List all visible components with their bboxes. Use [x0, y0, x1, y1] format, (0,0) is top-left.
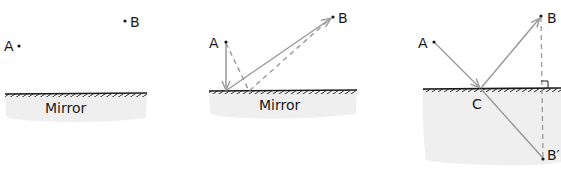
ray-mirror-to-b [227, 19, 330, 90]
ray-a-to-c [434, 42, 479, 87]
point-b-prime-label: B′ [547, 147, 560, 163]
mirror-line [5, 93, 147, 94]
point-a-label: A [209, 35, 219, 51]
mirror-surface-shading [423, 88, 561, 165]
mirror-line [423, 88, 561, 89]
point-a-dot [224, 40, 227, 43]
point-a-dot [432, 40, 435, 43]
panel-2: Mirror A B [209, 10, 357, 119]
point-a-label: A [418, 35, 428, 51]
point-b-label: B [338, 10, 348, 26]
mirror-label: Mirror [259, 97, 300, 113]
point-c-label: C [472, 96, 482, 112]
panel-1: Mirror A B [4, 14, 147, 122]
point-b-prime-dot [541, 157, 544, 160]
point-a-label: A [4, 38, 14, 54]
point-b-dot [123, 19, 126, 22]
panel-3: A B C B′ [418, 10, 561, 165]
ray-c-to-b [481, 19, 539, 88]
point-b-label: B [547, 10, 557, 26]
point-b-dot [331, 15, 334, 18]
mirror-line [209, 90, 357, 91]
point-b-dot [539, 14, 542, 17]
mirror-reflection-diagram: Mirror A B Mirror A B A [0, 0, 561, 175]
mirror-label: Mirror [45, 100, 86, 116]
point-a-dot [17, 44, 20, 47]
point-b-label: B [130, 14, 140, 30]
